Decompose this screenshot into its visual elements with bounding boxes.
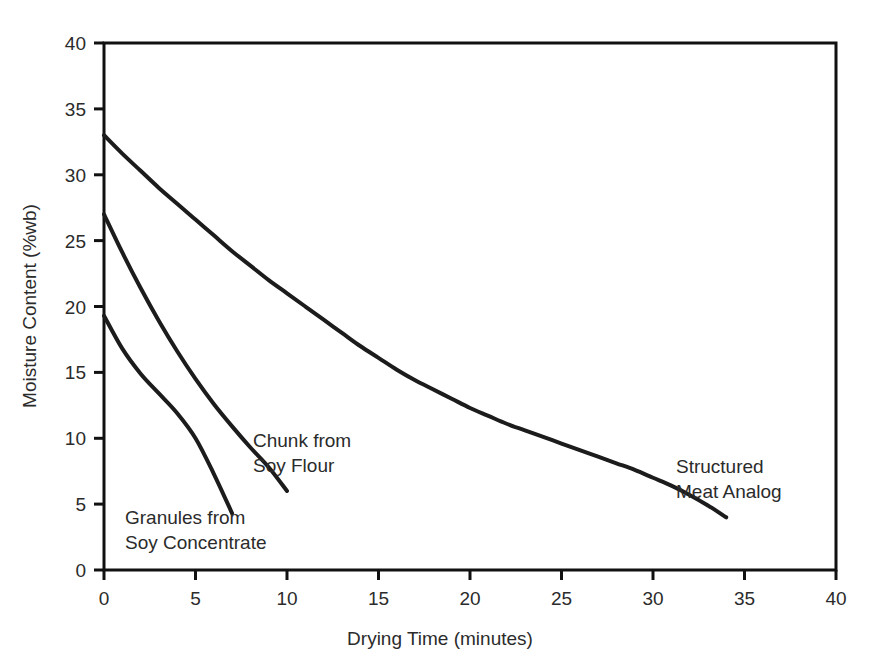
y-axis-tick-labels: 0 5 10 15 20 25 30 35 40 xyxy=(65,33,86,581)
x-axis-tick-labels: 0 5 10 15 20 25 30 35 40 xyxy=(99,588,847,609)
y-tick-label-20: 20 xyxy=(65,297,86,318)
x-tick-label-10: 10 xyxy=(276,588,297,609)
y-tick-label-25: 25 xyxy=(65,231,86,252)
y-tick-label-10: 10 xyxy=(65,428,86,449)
x-tick-label-25: 25 xyxy=(551,588,572,609)
y-axis-title: Moisture Content (%wb) xyxy=(19,204,40,408)
x-tick-label-35: 35 xyxy=(734,588,755,609)
annotation-structured-line-2: Meat Analog xyxy=(676,481,782,502)
data-series-group xyxy=(104,135,726,517)
x-axis-title: Drying Time (minutes) xyxy=(347,628,533,649)
x-tick-label-15: 15 xyxy=(368,588,389,609)
x-tick-label-0: 0 xyxy=(99,588,110,609)
annotation-chunk-from-soy-flour: Chunk from Soy Flour xyxy=(253,430,351,476)
chart-figure: 0 5 10 15 20 25 30 35 40 0 5 10 1 xyxy=(0,0,876,665)
annotation-granules-line-2: Soy Concentrate xyxy=(125,532,267,553)
annotation-structured-meat-analog: Structured Meat Analog xyxy=(676,456,782,502)
annotation-chunk-line-2: Soy Flour xyxy=(253,455,335,476)
y-tick-label-40: 40 xyxy=(65,33,86,54)
x-tick-label-30: 30 xyxy=(642,588,663,609)
y-tick-label-15: 15 xyxy=(65,362,86,383)
annotation-chunk-line-1: Chunk from xyxy=(253,430,351,451)
y-tick-label-35: 35 xyxy=(65,99,86,120)
chart-canvas: 0 5 10 15 20 25 30 35 40 0 5 10 1 xyxy=(0,0,876,665)
x-tick-label-20: 20 xyxy=(459,588,480,609)
x-tick-label-40: 40 xyxy=(825,588,846,609)
annotation-granules-from-soy-concentrate: Granules from Soy Concentrate xyxy=(125,507,267,553)
y-tick-label-5: 5 xyxy=(75,494,86,515)
x-tick-label-5: 5 xyxy=(190,588,201,609)
series-line-structured-meat-analog xyxy=(104,135,726,517)
y-tick-label-0: 0 xyxy=(75,560,86,581)
annotation-granules-line-1: Granules from xyxy=(125,507,245,528)
y-tick-label-30: 30 xyxy=(65,165,86,186)
series-line-granules-from-soy-concentrate xyxy=(104,316,232,514)
annotation-structured-line-1: Structured xyxy=(676,456,764,477)
